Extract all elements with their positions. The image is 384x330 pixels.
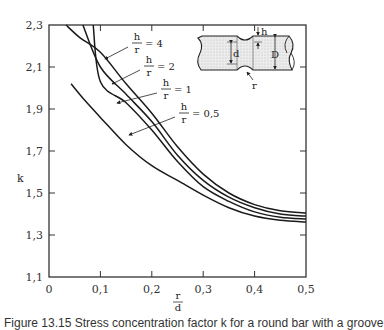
svg-text:r: r (164, 90, 169, 101)
y-axis-label: k (17, 172, 24, 185)
svg-text:= 4: = 4 (145, 38, 163, 49)
leader-arrow (105, 47, 128, 59)
x-axis-label: r d (173, 290, 183, 313)
y-tick-label: 2,3 (26, 19, 44, 32)
inset-grooved-bar-diagram: d D h r (198, 26, 295, 91)
series-label: hr= 4 (132, 31, 163, 55)
svg-text:r: r (147, 67, 152, 78)
x-tick-label: 0,3 (194, 283, 212, 296)
y-tick-label: 1,9 (26, 103, 44, 116)
y-tick-label: 1,1 (26, 271, 44, 284)
y-tick-label: 1,3 (26, 229, 44, 242)
svg-text:h: h (146, 54, 153, 65)
leader-arrow (129, 117, 175, 135)
svg-text:= 1: = 1 (174, 84, 192, 95)
svg-text:r: r (182, 114, 187, 125)
x-tick-label: 0 (46, 283, 53, 296)
svg-text:d: d (175, 302, 182, 313)
series-label: hr= 1 (161, 77, 192, 101)
svg-text:h: h (163, 77, 170, 88)
figure-caption: Figure 13.15 Stress concentration factor… (4, 316, 384, 330)
inset-label-D: D (271, 49, 279, 60)
x-tick-label: 0,1 (92, 283, 110, 296)
x-tick-label: 0,2 (143, 283, 161, 296)
y-tick-label: 2,1 (26, 61, 44, 74)
inset-label-d: d (233, 48, 240, 59)
svg-text:h: h (134, 31, 141, 42)
y-tick-label: 1,5 (26, 187, 44, 200)
svg-text:r: r (176, 290, 181, 301)
x-tick-label: 0,5 (297, 283, 315, 296)
inset-label-r: r (252, 80, 257, 91)
svg-text:h: h (181, 101, 188, 112)
leader-arrow (117, 93, 157, 103)
x-tick-label: 0,4 (246, 283, 264, 296)
y-tick-label: 1,7 (26, 145, 44, 158)
svg-text:= 0,5: = 0,5 (192, 108, 219, 119)
series-label: hr= 2 (144, 54, 175, 78)
series-label: hr= 0,5 (179, 101, 219, 125)
curve-h-r-0-5 (71, 84, 306, 222)
svg-text:= 2: = 2 (157, 61, 175, 72)
inset-label-h: h (261, 26, 268, 37)
svg-text:r: r (135, 44, 140, 55)
